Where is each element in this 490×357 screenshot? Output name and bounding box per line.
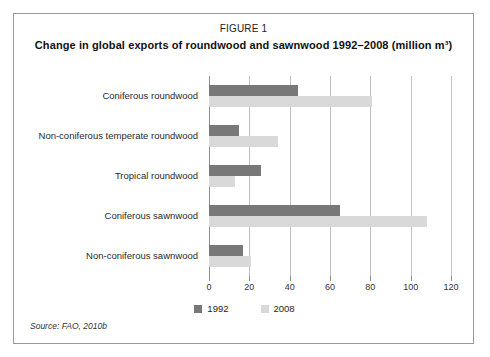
x-tick-120: [451, 276, 452, 281]
x-tick-60: [330, 276, 331, 281]
x-tick-label: 0: [206, 282, 211, 292]
x-tick-label: 20: [244, 282, 254, 292]
bar-group: [209, 245, 451, 267]
source-note: Source: FAO, 2010b: [30, 321, 107, 331]
category-label: Coniferous roundwood: [102, 90, 198, 101]
legend-label: 1992: [207, 303, 228, 314]
bar-1992[interactable]: [209, 165, 261, 176]
bar-2008[interactable]: [209, 96, 372, 107]
legend-label: 2008: [274, 303, 295, 314]
figure-number: FIGURE 1: [14, 22, 473, 36]
x-tick-label: 80: [365, 282, 375, 292]
bar-1992[interactable]: [209, 125, 239, 136]
bar-group: [209, 125, 451, 147]
bar-group: [209, 85, 451, 107]
plot-area: 020406080100120Coniferous roundwoodNon-c…: [209, 76, 451, 276]
figure-panel: FIGURE 1 Change in global exports of rou…: [13, 13, 474, 344]
legend-swatch-icon: [261, 305, 269, 313]
x-tick-label: 60: [325, 282, 335, 292]
category-label: Coniferous sawnwood: [105, 210, 198, 221]
x-tick-label: 120: [443, 282, 458, 292]
x-tick-label: 100: [403, 282, 418, 292]
x-tick-0: [209, 276, 210, 281]
legend-item[interactable]: 1992: [194, 303, 228, 314]
x-tick-100: [411, 276, 412, 281]
category-label: Tropical roundwood: [115, 170, 198, 181]
bar-2008[interactable]: [209, 136, 278, 147]
x-tick-label: 40: [285, 282, 295, 292]
figure-title: Change in global exports of roundwood an…: [14, 37, 473, 53]
chart-legend: 19922008: [14, 302, 475, 314]
x-tick-80: [370, 276, 371, 281]
figure-header: FIGURE 1 Change in global exports of rou…: [14, 22, 473, 53]
legend-item[interactable]: 2008: [261, 303, 295, 314]
bar-1992[interactable]: [209, 85, 298, 96]
bar-2008[interactable]: [209, 216, 427, 227]
x-tick-40: [290, 276, 291, 281]
category-label: Non-coniferous temperate roundwood: [39, 130, 198, 141]
gridline-120: [451, 76, 452, 276]
bar-1992[interactable]: [209, 205, 340, 216]
chart-area: 020406080100120Coniferous roundwoodNon-c…: [14, 66, 475, 291]
bar-2008[interactable]: [209, 256, 251, 267]
bar-2008[interactable]: [209, 176, 235, 187]
x-tick-20: [249, 276, 250, 281]
bar-group: [209, 165, 451, 187]
bar-group: [209, 205, 451, 227]
legend-swatch-icon: [194, 305, 202, 313]
bar-1992[interactable]: [209, 245, 243, 256]
category-label: Non-coniferous sawnwood: [86, 250, 198, 261]
